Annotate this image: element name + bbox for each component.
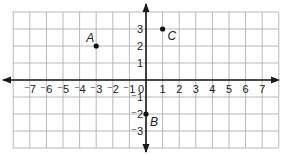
x-tick-label: 3 xyxy=(193,83,199,95)
coordinate-plane: ⁻7⁻6⁻5⁻4⁻3⁻2⁻101234567 321⁻1⁻2⁻3 ABC xyxy=(0,0,283,155)
y-tick-label: ⁻2 xyxy=(131,108,143,120)
x-tick-label: ⁻6 xyxy=(40,83,52,95)
point-dot-icon xyxy=(143,111,148,116)
point-dot-icon xyxy=(94,43,99,48)
x-tick-label: ⁻4 xyxy=(74,83,86,95)
x-tick-labels: ⁻7⁻6⁻5⁻4⁻3⁻2⁻101234567 xyxy=(24,83,266,95)
x-tick-label: ⁻3 xyxy=(90,83,102,95)
x-tick-label: 4 xyxy=(209,83,215,95)
y-tick-label: ⁻1 xyxy=(131,91,143,103)
x-tick-label: 7 xyxy=(259,83,265,95)
x-tick-label: 5 xyxy=(226,83,232,95)
point-label: A xyxy=(85,31,94,45)
y-tick-label: ⁻3 xyxy=(131,125,143,137)
point-label: C xyxy=(168,29,177,43)
y-tick-label: 2 xyxy=(137,40,143,52)
x-axis-left-arrow-icon xyxy=(2,77,11,84)
point-label: B xyxy=(150,115,158,129)
x-tick-label: 6 xyxy=(243,83,249,95)
point-dot-icon xyxy=(160,26,165,31)
y-axis-up-arrow-icon xyxy=(143,3,150,12)
x-tick-label: 2 xyxy=(176,83,182,95)
x-tick-label: ⁻7 xyxy=(24,83,36,95)
y-tick-label: 3 xyxy=(137,23,143,35)
y-tick-label: 1 xyxy=(137,57,143,69)
x-tick-label: 1 xyxy=(160,83,166,95)
x-tick-label: ⁻5 xyxy=(57,83,69,95)
x-tick-label: ⁻2 xyxy=(107,83,119,95)
